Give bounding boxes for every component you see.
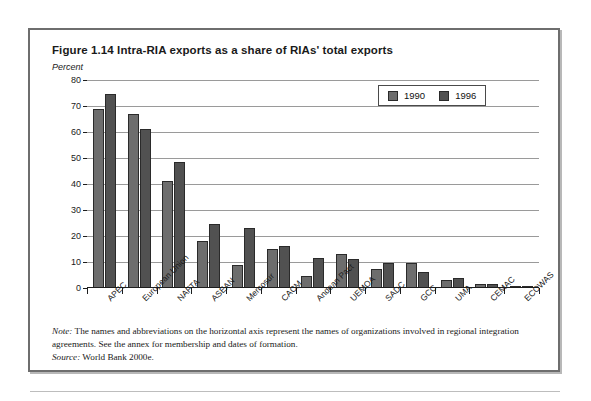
legend-label-1990: 1990 (404, 90, 425, 101)
bar-group (435, 80, 470, 288)
figure-box: Figure 1.14 Intra-RIA exports as a share… (28, 28, 560, 372)
y-tick-label: 70 (71, 101, 81, 111)
page-title: Figure 1.14 Intra-RIA exports as a share… (52, 44, 393, 56)
bar-group (365, 80, 400, 288)
y-axis-unit-label: Percent (52, 62, 83, 72)
bar-group (261, 80, 296, 288)
bar-1996 (105, 94, 116, 288)
bar-1996 (313, 258, 324, 288)
plot-area: 01020304050607080 APECEuropean UnionNAFT… (87, 80, 539, 288)
legend-label-1996: 1996 (455, 90, 476, 101)
chart-legend: 1990 1996 (378, 85, 486, 106)
bar-group (191, 80, 226, 288)
y-tick-label: 50 (71, 153, 81, 163)
bar-1996 (244, 228, 255, 288)
legend-swatch-1996-icon (439, 91, 449, 101)
legend-item-1996: 1996 (439, 90, 476, 101)
legend-item-1990: 1990 (388, 90, 425, 101)
bar-1990 (406, 263, 417, 288)
x-tick-mark (87, 288, 88, 294)
source-lead: Source: (52, 352, 80, 362)
bar-group (400, 80, 435, 288)
y-tick-label: 60 (71, 127, 81, 137)
footnotes: Note: The names and abbreviations on the… (52, 325, 538, 364)
note-lead: Note: (52, 326, 72, 336)
note-text: The names and abbreviations on the horiz… (52, 326, 519, 349)
bar-group (122, 80, 157, 288)
bar-group (469, 80, 504, 288)
bar-group (226, 80, 261, 288)
bar-group (504, 80, 539, 288)
bar-group (296, 80, 331, 288)
bar-group (87, 80, 122, 288)
page-divider-rule (30, 391, 560, 392)
x-axis-line (87, 287, 539, 289)
y-tick-label: 20 (71, 231, 81, 241)
y-tick-label: 80 (71, 75, 81, 85)
y-tick-label: 40 (71, 179, 81, 189)
source-text: World Bank 2000e. (80, 352, 154, 362)
bar-1996 (279, 246, 290, 288)
bar-1990 (93, 109, 104, 288)
bar-group (330, 80, 365, 288)
bar-1990 (128, 114, 139, 288)
bars-layer (87, 80, 539, 288)
legend-swatch-1990-icon (388, 91, 398, 101)
y-tick-label: 10 (71, 257, 81, 267)
source-line: Source: World Bank 2000e. (52, 351, 538, 364)
bar-1996 (209, 224, 220, 288)
bar-1996 (140, 129, 151, 288)
y-tick-label: 0 (76, 283, 81, 293)
note-line: Note: The names and abbreviations on the… (52, 325, 538, 351)
y-tick-label: 30 (71, 205, 81, 215)
bar-1996 (383, 263, 394, 288)
